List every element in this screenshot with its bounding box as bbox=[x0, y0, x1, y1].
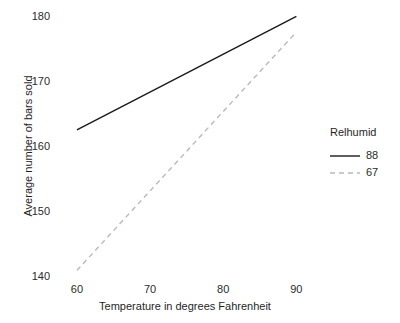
legend-label: 88 bbox=[360, 150, 378, 161]
chart-figure: 180 170 160 150 140 60 70 80 90 Temperat… bbox=[0, 0, 400, 323]
series-line-67 bbox=[77, 32, 296, 270]
legend-swatch-dashed-icon bbox=[330, 168, 360, 178]
x-tick-label: 60 bbox=[59, 284, 95, 295]
x-tick-label: 80 bbox=[205, 284, 241, 295]
legend: Relhumid 88 67 bbox=[330, 126, 396, 181]
plot-area bbox=[55, 10, 311, 282]
x-tick-label: 90 bbox=[278, 284, 314, 295]
x-axis-tick-labels: 60 70 80 90 bbox=[55, 284, 311, 298]
legend-swatch-solid-icon bbox=[330, 151, 360, 161]
y-tick-label: 180 bbox=[16, 11, 50, 22]
legend-title: Relhumid bbox=[330, 126, 396, 138]
legend-entry-88: 88 bbox=[330, 147, 396, 164]
y-tick-label: 140 bbox=[16, 271, 50, 282]
series-line-88 bbox=[77, 16, 296, 129]
plot-lines bbox=[55, 10, 311, 282]
legend-entry-67: 67 bbox=[330, 164, 396, 181]
x-tick-label: 70 bbox=[132, 284, 168, 295]
legend-label: 67 bbox=[360, 167, 378, 178]
y-axis-title: Average number of bars sold bbox=[22, 56, 34, 236]
x-axis-title: Temperature in degrees Fahrenheit bbox=[40, 300, 330, 312]
